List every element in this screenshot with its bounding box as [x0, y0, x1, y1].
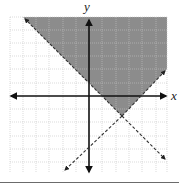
- y-axis-label: y: [84, 0, 90, 13]
- boundary-line-2-lower: [65, 116, 122, 170]
- shaded-solution-region: [23, 17, 167, 116]
- x-axis-label: x: [171, 89, 177, 102]
- bottom-divider: [0, 182, 179, 183]
- boundary-line-1-dashed: [122, 116, 165, 159]
- inequality-graph: [0, 0, 179, 184]
